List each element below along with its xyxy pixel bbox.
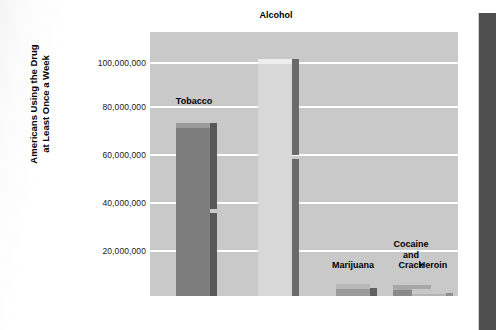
- bar-marijuana: [336, 288, 370, 296]
- bar-side-face: [210, 213, 217, 296]
- y-axis-title-line-2: at Least Once a Week: [40, 4, 52, 204]
- bar-side-face: [370, 288, 377, 296]
- plot-area: Tobacco Alcohol Marijuana Cocaine and Cr…: [150, 32, 458, 296]
- bar-side-face: [210, 123, 217, 209]
- page-gutter-band: [478, 13, 496, 330]
- y-axis-tick-labels: 100,000,000 80,000,000 60,000,000 40,000…: [52, 32, 146, 296]
- bar-front-face: [258, 63, 292, 159]
- bar-alcohol-lower: [258, 159, 292, 296]
- bar-tobacco: [176, 127, 210, 213]
- bar-top-face: [412, 289, 446, 294]
- y-tick-label: 20,000,000: [56, 246, 146, 256]
- bar-front-face: [176, 213, 210, 296]
- bar-side-face: [292, 59, 299, 155]
- chart-figure: Americans Using the Drug at Least Once a…: [0, 0, 497, 330]
- bar-side-face: [292, 159, 299, 296]
- bar-label-heroin: Heroin: [400, 260, 466, 271]
- bar-front-face: [258, 159, 292, 296]
- y-axis-title-line-1: Americans Using the Drug: [28, 4, 40, 204]
- y-tick-label: 100,000,000: [56, 58, 146, 68]
- gridline-100m: [150, 62, 458, 64]
- bar-label-tobacco: Tobacco: [158, 96, 230, 107]
- bar-heroin: [412, 293, 446, 296]
- y-tick-label: 80,000,000: [56, 102, 146, 112]
- bar-top-face: [258, 59, 292, 64]
- bar-top-face: [336, 284, 370, 289]
- y-axis-title: Americans Using the Drug at Least Once a…: [28, 4, 52, 204]
- bar-front-face: [336, 288, 370, 296]
- bar-tobacco-lower: [176, 213, 210, 296]
- bar-top-face: [176, 123, 210, 128]
- y-tick-label: 60,000,000: [56, 150, 146, 160]
- bar-label-alcohol: Alcohol: [240, 10, 312, 21]
- bar-front-face: [176, 127, 210, 213]
- y-tick-label: 40,000,000: [56, 198, 146, 208]
- bar-side-face: [446, 293, 453, 296]
- bar-alcohol: [258, 63, 292, 159]
